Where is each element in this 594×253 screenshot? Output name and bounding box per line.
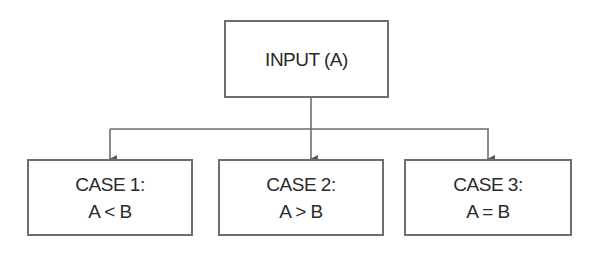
- input-node: INPUT (A): [224, 20, 389, 98]
- input-node-label: INPUT (A): [265, 46, 348, 73]
- case-3-node: CASE 3: A = B: [404, 159, 572, 236]
- case-3-condition: A = B: [466, 198, 509, 225]
- case-2-title: CASE 2:: [266, 171, 335, 198]
- case-2-node: CASE 2: A > B: [218, 159, 384, 236]
- case-1-condition: A < B: [88, 198, 131, 225]
- case-2-condition: A > B: [279, 198, 322, 225]
- case-3-title: CASE 3:: [453, 171, 522, 198]
- case-1-node: CASE 1: A < B: [27, 159, 193, 236]
- case-1-title: CASE 1:: [75, 171, 144, 198]
